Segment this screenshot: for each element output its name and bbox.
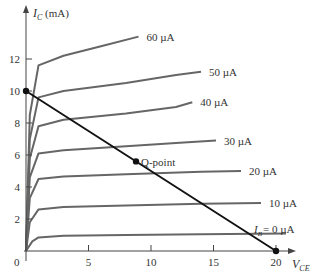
curve-label: 50 µA	[209, 66, 237, 78]
x-axis-arrow-icon	[288, 248, 296, 254]
load-line-ic-intercept	[23, 88, 29, 94]
x-tick-label: 15	[208, 256, 220, 268]
y-tick-label: 12	[9, 53, 20, 65]
curve-label: 10 µA	[269, 197, 297, 209]
ib-curve	[26, 102, 192, 251]
transistor-characteristics-chart: 510152024681012 = 0 µA10 µA20 µA30 µA40 …	[0, 0, 323, 274]
y-tick-label: 8	[15, 117, 21, 129]
ib-curve	[26, 37, 139, 251]
curve-label: 60 µA	[147, 31, 175, 43]
x-axis-label: VCE	[292, 257, 310, 273]
curve-label: = 0 µA	[263, 223, 295, 235]
curve-label: 20 µA	[249, 165, 277, 177]
y-axis-arrow-icon	[23, 5, 29, 13]
y-axis-label: IC (mA)	[32, 6, 69, 22]
q-point-label: Q-point	[141, 156, 175, 168]
ib-zero-label: IB	[253, 223, 263, 238]
y-tick-label: 6	[15, 149, 21, 161]
curve-label: 30 µA	[224, 135, 252, 147]
y-tick-label: 2	[15, 213, 21, 225]
q-point-marker	[133, 158, 139, 164]
curve-label: 40 µA	[200, 96, 228, 108]
load-line-vce-intercept	[273, 248, 279, 254]
x-tick-label: 5	[86, 256, 92, 268]
y-tick-label: 4	[15, 181, 21, 193]
ib-curve	[26, 171, 241, 251]
origin-label: 0	[14, 256, 20, 268]
ib-curve	[26, 233, 286, 251]
x-tick-label: 10	[146, 256, 158, 268]
ib-curve	[26, 203, 261, 251]
y-tick-label: 10	[9, 85, 21, 97]
x-tick-label: 20	[271, 256, 283, 268]
